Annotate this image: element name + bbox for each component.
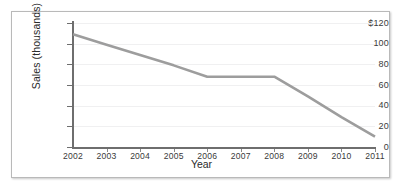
x-tick-mark: [274, 148, 275, 152]
x-tick-mark: [107, 148, 108, 152]
gridline: [73, 85, 375, 86]
x-tick-mark: [241, 148, 242, 152]
y-axis-title: Sales (thousands): [30, 0, 42, 106]
x-tick-mark: [341, 148, 342, 152]
x-tick-mark: [308, 148, 309, 152]
y-axis-line: [72, 21, 74, 149]
gridline: [73, 64, 375, 65]
x-tick-mark: [174, 148, 175, 152]
gridline: [73, 106, 375, 107]
x-axis-line: [72, 147, 376, 149]
plot-area: [73, 23, 375, 147]
gridline: [73, 23, 375, 24]
gridline: [73, 44, 375, 45]
x-tick-mark: [207, 148, 208, 152]
x-tick-mark: [140, 148, 141, 152]
x-tick-mark: [375, 148, 376, 152]
chart-figure: Sales (thousands) Year 020406080100$120 …: [11, 11, 390, 178]
x-tick-label: 2011: [355, 151, 395, 161]
gridline: [73, 126, 375, 127]
